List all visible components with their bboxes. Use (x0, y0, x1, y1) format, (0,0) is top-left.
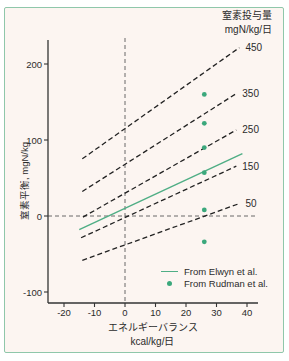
x-tick-label: 0 (122, 307, 127, 318)
right-axis-title-line1: 窒素投与量 (120, 9, 272, 23)
right-axis-title: 窒素投与量 mgN/kg/日 (120, 9, 272, 36)
x-axis-label-line1: エネルギーバランス (60, 321, 245, 335)
y-axis-label: 窒素平衡, mgN/kg (17, 101, 31, 261)
isointake-label-350: 350 (242, 88, 259, 99)
x-tick-label: -10 (88, 307, 102, 318)
legend-dot-marker (157, 281, 181, 286)
x-tick-label: 20 (181, 307, 192, 318)
legend-label-rudman: From Rudman et al. (184, 278, 268, 289)
rudman-dot (202, 208, 207, 213)
legend-item-elwyn: From Elwyn et al. (157, 265, 268, 277)
y-tick-label: 0 (37, 211, 42, 222)
rudman-dot (202, 121, 207, 126)
legend-label-elwyn: From Elwyn et al. (184, 266, 257, 277)
legend-line-marker (157, 271, 181, 272)
legend-item-rudman: From Rudman et al. (157, 277, 268, 289)
isointake-label-150: 150 (242, 161, 259, 172)
x-axis-label: エネルギーバランス kcal/kg/日 (60, 321, 245, 348)
isointake-label-50: 50 (245, 198, 257, 209)
x-tick-label: 30 (211, 307, 222, 318)
x-tick-label: 40 (242, 307, 253, 318)
y-tick-label: -100 (23, 287, 42, 298)
rudman-dot (202, 239, 207, 244)
rudman-dot (202, 92, 207, 97)
elwyn-line (79, 154, 242, 230)
rudman-dot (202, 170, 207, 175)
isointake-label-450: 450 (245, 42, 262, 53)
x-axis-label-line2: kcal/kg/日 (60, 335, 245, 349)
x-tick-label: -20 (57, 307, 71, 318)
legend: From Elwyn et al. From Rudman et al. (157, 265, 268, 289)
isointake-line-50 (82, 204, 239, 261)
y-tick-label: 200 (26, 59, 42, 70)
isointake-label-250: 250 (242, 124, 259, 135)
figure: 450350250150502001000-100-20-10010203040… (0, 0, 289, 361)
x-tick-label: 10 (150, 307, 161, 318)
rudman-dot (202, 145, 207, 150)
plot-area: 450350250150502001000-100-20-10010203040 (0, 0, 289, 361)
right-axis-title-line2: mgN/kg/日 (120, 23, 272, 37)
